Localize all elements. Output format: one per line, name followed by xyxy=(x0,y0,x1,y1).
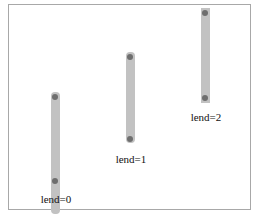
label-lend-2: lend=2 xyxy=(191,111,222,123)
endpoint-top-lend-0 xyxy=(52,94,58,100)
endpoint-top-lend-2 xyxy=(202,10,208,16)
endpoint-bottom-lend-1 xyxy=(127,136,133,142)
line-segment-lend-1 xyxy=(126,52,135,143)
line-segment-lend-2 xyxy=(201,8,210,103)
label-lend-1: lend=1 xyxy=(116,153,147,165)
endpoint-bottom-lend-0 xyxy=(52,178,58,184)
label-lend-0: lend=0 xyxy=(41,193,72,205)
endpoint-bottom-lend-2 xyxy=(202,95,208,101)
endpoint-top-lend-1 xyxy=(127,54,133,60)
